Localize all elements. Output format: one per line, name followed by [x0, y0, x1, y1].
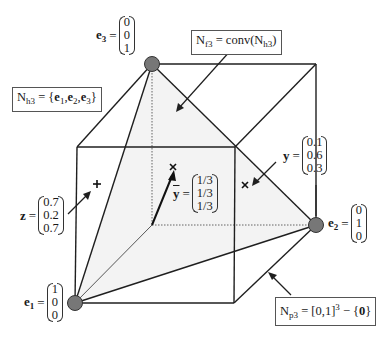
e2-vector: 0 1 0: [351, 204, 367, 243]
np3-label: Np3 = [0,1]3 − {0}: [275, 297, 376, 326]
z-label: z = 0.7 0.2 0.7: [20, 196, 64, 235]
e1-vector: 1 0 0: [47, 283, 63, 322]
e2-label: e2 = 0 1 0: [328, 204, 367, 243]
y-bar-vector: 1/3 1/3 1/3: [192, 174, 218, 213]
z-vector: 0.7 0.2 0.7: [38, 196, 64, 235]
e3-label: e3 = 0 0 1: [96, 16, 135, 55]
nh3-label: Nh3 = {e1,e2,e3}: [12, 87, 102, 112]
e3-vector: 0 0 1: [119, 16, 135, 55]
y-label: y = 0.1 0.6 0.3: [283, 136, 327, 175]
vertex-e1: [68, 296, 83, 311]
e3-name: e3: [96, 27, 106, 44]
vertex-e2: [309, 218, 324, 233]
vertex-e3: [145, 57, 160, 72]
nf3-label: Nf3 = conv(Nh3): [191, 30, 282, 55]
e1-label: e1 = 1 0 0: [24, 283, 63, 322]
y-vector: 0.1 0.6 0.3: [302, 136, 328, 175]
y-bar-label: y = 1/3 1/3 1/3: [173, 174, 218, 213]
